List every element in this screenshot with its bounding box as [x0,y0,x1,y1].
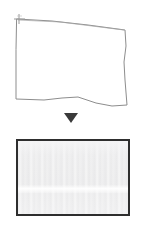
flow-arrow-down-icon: downward arrow [64,113,78,124]
page-outline-path [16,19,127,106]
output-page-panel: rectified output page [16,139,130,216]
source-panel-label: detected page quadrilateral [0,112,1,113]
flow-arrow-label: downward arrow [64,123,65,124]
output-page-top-shade [18,141,128,155]
output-page-highlight-band [18,185,128,193]
source-quad-panel: detected page quadrilateral [0,0,141,112]
figure-canvas: detected page quadrilateral downward arr… [0,0,141,232]
flow-arrow-triangle [64,113,78,123]
source-quad-svg [0,0,141,112]
